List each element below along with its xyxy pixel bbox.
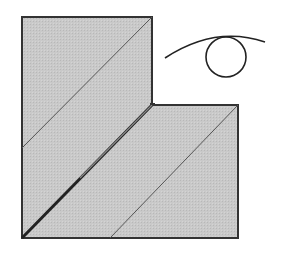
diagram-svg [0,0,283,259]
view-eye-icon [165,36,265,77]
folding-diagram [0,0,283,259]
